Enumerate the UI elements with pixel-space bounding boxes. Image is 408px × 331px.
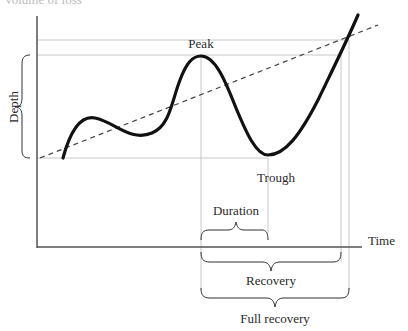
full-recovery-label: Full recovery (240, 311, 310, 326)
drawdown-diagram: Volume of loss Depth Peak Trough Time Du… (0, 0, 408, 331)
peak-label: Peak (188, 36, 214, 51)
x-axis-label: Time (368, 233, 395, 248)
top-caption-partial: Volume of loss (4, 0, 82, 7)
recovery-brace (201, 252, 341, 271)
y-axis-label: Depth (6, 91, 21, 123)
duration-brace (201, 222, 268, 240)
trough-label: Trough (257, 170, 295, 185)
guide-lines (37, 40, 349, 290)
duration-label: Duration (213, 203, 260, 218)
recovery-label: Recovery (246, 273, 296, 288)
full-recovery-brace (201, 288, 349, 307)
